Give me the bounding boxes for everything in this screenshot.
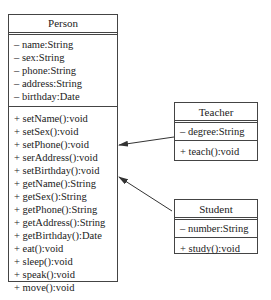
method: + sleep():void <box>14 255 117 268</box>
person-class-box: Person – name:String – sex:String – phon… <box>8 14 118 282</box>
teacher-to-person-arrow <box>119 137 174 145</box>
teacher-attributes: – degree:String <box>175 123 257 140</box>
method: + study():void <box>180 242 257 255</box>
method: + eat():void <box>14 242 117 255</box>
attribute: – number:String <box>180 222 257 235</box>
student-class-box: Student – number:String + study():void <box>174 199 258 254</box>
student-to-person-arrow <box>119 177 172 211</box>
student-methods: + study():void <box>175 237 257 257</box>
teacher-class-name: Teacher <box>175 103 257 123</box>
person-methods: + setName():void + setSex():void + setPh… <box>9 106 117 294</box>
method: + setSex():void <box>14 125 117 138</box>
method: + serAddress():void <box>14 151 117 164</box>
student-attributes: – number:String <box>175 220 257 237</box>
method: + getName():String <box>14 177 117 190</box>
person-attributes: – name:String – sex:String – phone:Strin… <box>9 35 117 106</box>
method: + speak():void <box>14 268 117 281</box>
method: + getBirthday():Date <box>14 229 117 242</box>
attribute: – name:String <box>14 38 117 51</box>
teacher-class-box: Teacher – degree:String + teach():void <box>174 102 258 161</box>
method: + getSex():String <box>14 190 117 203</box>
attribute: – address:String <box>14 77 117 90</box>
method: + setPhone():void <box>14 138 117 151</box>
method: + getPhone():String <box>14 203 117 216</box>
attribute: – sex:String <box>14 51 117 64</box>
person-class-name: Person <box>9 15 117 35</box>
method: + setName():void <box>14 112 117 125</box>
teacher-methods: + teach():void <box>175 140 257 160</box>
student-class-name: Student <box>175 200 257 220</box>
attribute: – degree:String <box>180 125 257 138</box>
method: + teach():void <box>180 145 257 158</box>
method: + move():void <box>14 281 117 294</box>
method: + getAddress():String <box>14 216 117 229</box>
method: + setBirthday():void <box>14 164 117 177</box>
attribute: – birthday:Date <box>14 90 117 103</box>
attribute: – phone:String <box>14 64 117 77</box>
